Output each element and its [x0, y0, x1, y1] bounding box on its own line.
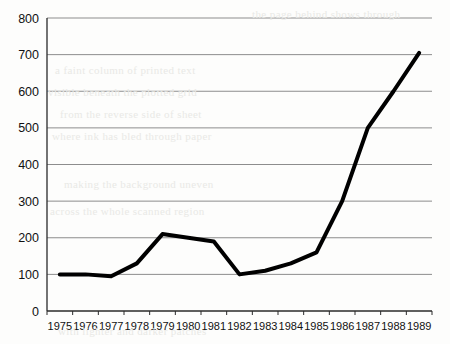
y-tick-label: 200: [18, 231, 39, 245]
x-tick-label: 1980: [176, 320, 200, 332]
x-tick-label: 1987: [356, 320, 380, 332]
x-tick-label: 1984: [279, 320, 303, 332]
y-tick-label: 500: [18, 121, 39, 135]
y-axis-tick-labels: 0100200300400500600700800: [18, 12, 39, 319]
line-chart-figure: the page behind shows through a faint co…: [0, 0, 450, 344]
x-tick-label: 1986: [330, 320, 354, 332]
x-axis-tick-labels: 1975197619771978197919801981198219831984…: [48, 320, 432, 332]
x-tick-label: 1978: [125, 320, 149, 332]
x-tick-label: 1985: [304, 320, 328, 332]
x-tick-label: 1983: [253, 320, 277, 332]
x-tick-label: 1989: [407, 320, 431, 332]
y-tick-label: 700: [18, 48, 39, 62]
y-tick-label: 300: [18, 195, 39, 209]
x-tick-label: 1979: [150, 320, 174, 332]
gridlines-group: [47, 18, 432, 274]
y-tick-label: 400: [18, 158, 39, 172]
x-tick-label: 1976: [73, 320, 97, 332]
y-tick-label: 0: [32, 305, 39, 319]
x-tick-label: 1977: [99, 320, 123, 332]
y-tick-label: 600: [18, 85, 39, 99]
x-tick-label: 1988: [381, 320, 405, 332]
y-tick-label: 800: [18, 12, 39, 26]
chart-svg: 0100200300400500600700800 19751976197719…: [0, 0, 450, 344]
x-tick-label: 1975: [48, 320, 72, 332]
x-tick-label: 1982: [227, 320, 251, 332]
y-tick-label: 100: [18, 268, 39, 282]
x-tick-label: 1981: [202, 320, 226, 332]
